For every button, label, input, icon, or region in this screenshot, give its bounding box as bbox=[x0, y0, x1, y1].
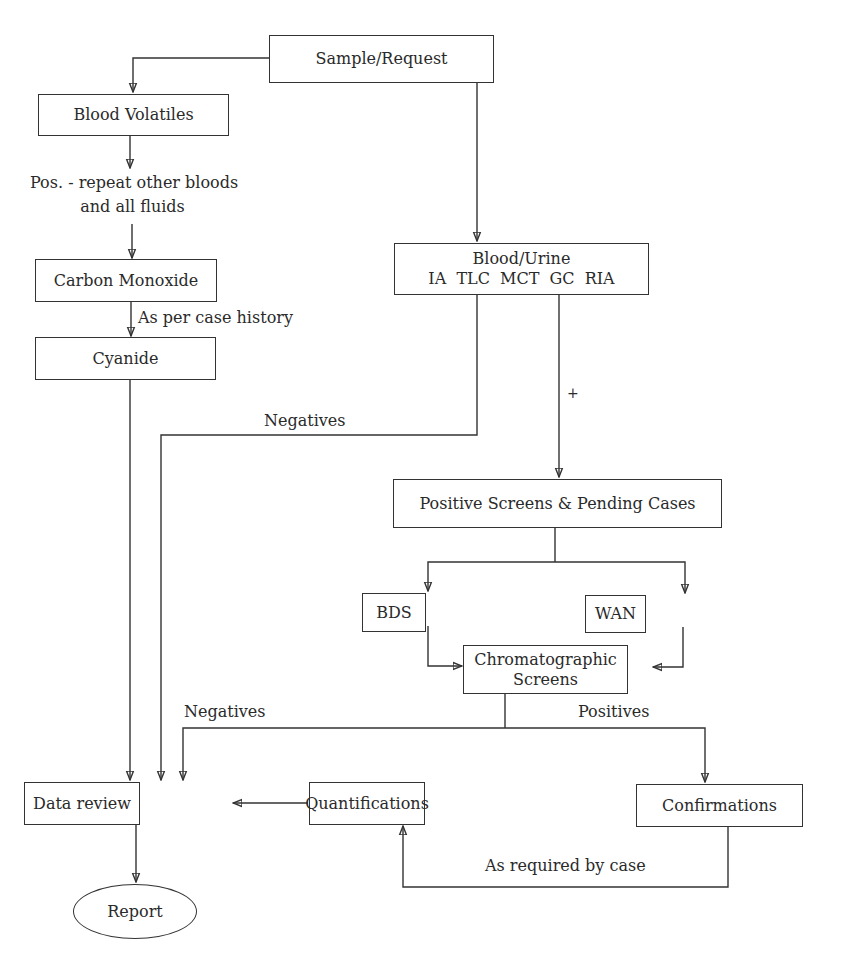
node-label: Positive Screens & Pending Cases bbox=[419, 494, 695, 514]
node-sample-request: Sample/Request bbox=[269, 35, 494, 83]
node-label: Confirmations bbox=[662, 796, 777, 816]
edge-label-line1: Pos. - repeat other bloods bbox=[30, 173, 235, 193]
toxicology-workflow-diagram: Sample/Request Blood Volatiles Carbon Mo… bbox=[0, 0, 857, 967]
node-positive-screens: Positive Screens & Pending Cases bbox=[393, 479, 722, 528]
node-label-line1: Blood/Urine bbox=[473, 249, 571, 269]
edge-bds-to-chromatographic bbox=[428, 626, 462, 666]
edge-label-negatives-lower: Negatives bbox=[184, 702, 266, 722]
node-label: Sample/Request bbox=[315, 49, 447, 69]
node-label: Data review bbox=[33, 794, 131, 814]
node-bds: BDS bbox=[362, 593, 426, 632]
edge-label-as-per-case-history: As per case history bbox=[138, 308, 293, 328]
node-blood-volatiles: Blood Volatiles bbox=[38, 94, 229, 136]
node-label-line2: Screens bbox=[513, 670, 578, 690]
edge-to-wan bbox=[555, 562, 685, 593]
node-label: Blood Volatiles bbox=[73, 105, 193, 125]
node-chromatographic-screens: Chromatographic Screens bbox=[463, 645, 628, 694]
node-label-line2: IA TLC MCT GC RIA bbox=[428, 269, 614, 289]
node-label: Quantifications bbox=[305, 794, 429, 814]
node-label: BDS bbox=[376, 603, 412, 623]
node-data-review: Data review bbox=[24, 782, 140, 825]
edge-label-pos-repeat: Pos. - repeat other bloods and all fluid… bbox=[30, 173, 235, 217]
edge-label-as-required-by-case: As required by case bbox=[485, 856, 646, 876]
node-label: Carbon Monoxide bbox=[54, 271, 199, 291]
edge-chromatographic-negatives bbox=[183, 728, 505, 780]
node-label: WAN bbox=[595, 604, 636, 624]
edge-wan-to-chromatographic bbox=[653, 627, 683, 667]
edge-label-plus: + bbox=[567, 383, 579, 403]
node-label: Cyanide bbox=[93, 349, 159, 369]
edge-to-bds bbox=[428, 562, 555, 591]
node-cyanide: Cyanide bbox=[35, 337, 216, 380]
edge-label-negatives-upper: Negatives bbox=[264, 411, 346, 431]
node-carbon-monoxide: Carbon Monoxide bbox=[35, 259, 217, 302]
node-quantifications: Quantifications bbox=[309, 782, 425, 825]
edge-chromatographic-positives bbox=[505, 728, 705, 782]
edge-label-line2: and all fluids bbox=[30, 197, 235, 217]
edge-label-positives: Positives bbox=[578, 702, 649, 722]
node-blood-urine: Blood/Urine IA TLC MCT GC RIA bbox=[394, 243, 649, 295]
node-label-line1: Chromatographic bbox=[474, 650, 617, 670]
node-wan: WAN bbox=[585, 595, 646, 633]
node-label: Report bbox=[107, 902, 162, 922]
edge-sample-to-volatiles bbox=[133, 58, 269, 92]
node-report: Report bbox=[73, 884, 197, 939]
node-confirmations: Confirmations bbox=[636, 784, 803, 827]
